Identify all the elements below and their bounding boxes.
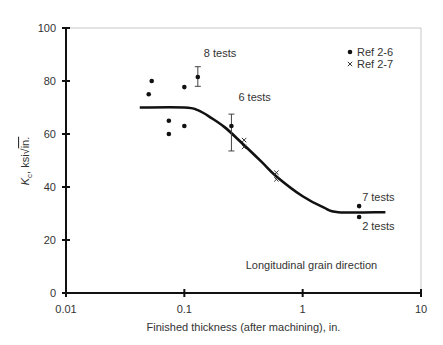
- data-point-dot: [167, 118, 172, 123]
- annotation-label: 2 tests: [362, 220, 395, 232]
- data-point-dot: [146, 92, 151, 97]
- legend-item: Ref 2-6: [348, 46, 393, 58]
- data-point-dot: [357, 204, 362, 209]
- y-axis: 020406080100: [38, 22, 70, 299]
- x-axis: 0.010.1110: [55, 289, 427, 315]
- y-tick-label: 0: [50, 287, 56, 299]
- x-tick-label: 1: [300, 303, 306, 315]
- y-tick-label: 40: [44, 181, 56, 193]
- annotation-label: 7 tests: [362, 191, 395, 203]
- legend: Ref 2-6Ref 2-7: [348, 46, 393, 70]
- y-tick-label: 60: [44, 128, 56, 140]
- x-tick-label: 10: [415, 303, 427, 315]
- data-point-dot: [182, 85, 187, 90]
- legend-x-icon: [348, 62, 352, 66]
- annotations: 8 tests6 tests7 tests2 testsLongitudinal…: [204, 47, 395, 271]
- trend-curve: [140, 107, 386, 212]
- x-tick-label: 0.1: [177, 303, 192, 315]
- y-tick-label: 100: [38, 22, 56, 34]
- data-point-x: [274, 170, 278, 174]
- y-tick-label: 20: [44, 234, 56, 246]
- y-tick-label: 80: [44, 75, 56, 87]
- annotation-label: 6 tests: [238, 91, 271, 103]
- x-tick-label: 0.01: [55, 303, 76, 315]
- data-points: [146, 67, 361, 220]
- data-point-dot: [357, 215, 362, 220]
- annotation-label: 8 tests: [204, 47, 237, 59]
- legend-label: Ref 2-6: [357, 46, 393, 58]
- x-axis-title: Finished thickness (after machining), in…: [147, 321, 341, 333]
- data-point-dot: [196, 75, 201, 80]
- data-point-dot: [229, 124, 234, 129]
- legend-label: Ref 2-7: [357, 58, 393, 70]
- y-axis-title: Kc, ksi√in.: [19, 137, 34, 186]
- data-point-dot: [182, 124, 187, 129]
- legend-dot-icon: [348, 50, 353, 55]
- data-point-dot: [149, 79, 154, 84]
- chart: 020406080100 0.010.1110 8 tests6 tests7 …: [0, 0, 443, 345]
- svg-text:Kc, ksi√in.: Kc, ksi√in.: [19, 137, 34, 186]
- data-point-x: [242, 138, 246, 142]
- data-point-dot: [167, 132, 172, 137]
- legend-item: Ref 2-7: [348, 58, 393, 70]
- annotation-label: Longitudinal grain direction: [246, 259, 377, 271]
